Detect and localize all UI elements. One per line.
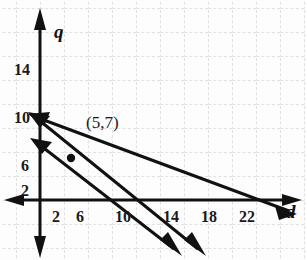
x-tick-label-6: 6 (69, 209, 91, 225)
y-axis-label: q (54, 22, 64, 41)
intersection-point-marker (67, 154, 75, 162)
intersection-point-label: (5,7) (86, 114, 119, 131)
y-tick-label-6: 6 (16, 158, 34, 174)
x-tick-label-10: 10 (110, 209, 136, 225)
coordinate-graph-figure: q d 14 10 6 2 2 6 10 14 18 22 (5,7) (0, 0, 307, 260)
x-tick-label-2: 2 (45, 209, 67, 225)
x-tick-label-22: 22 (234, 209, 260, 225)
x-tick-label-18: 18 (196, 209, 222, 225)
line-steep-b (30, 138, 182, 256)
line-steep-a (28, 112, 206, 256)
y-tick-label-2: 2 (16, 183, 34, 199)
y-tick-label-10: 10 (10, 110, 34, 126)
x-axis-label: d (286, 202, 296, 221)
y-tick-label-14: 14 (10, 62, 34, 78)
x-tick-label-14: 14 (158, 209, 184, 225)
